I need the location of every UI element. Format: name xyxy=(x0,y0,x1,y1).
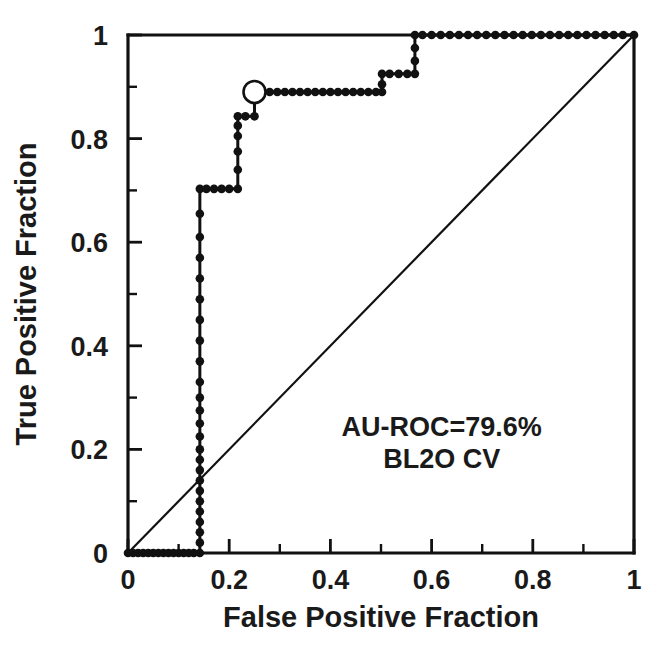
roc-data-point xyxy=(555,31,564,40)
x-tick-label: 0.4 xyxy=(312,565,350,595)
x-tick-label: 1 xyxy=(626,565,641,595)
roc-data-point xyxy=(296,88,305,97)
roc-data-point xyxy=(196,316,205,325)
roc-data-point xyxy=(196,357,205,366)
roc-data-point xyxy=(196,455,205,464)
roc-data-point xyxy=(411,57,420,66)
roc-data-point xyxy=(196,274,205,283)
roc-figure: 00.20.40.60.8100.20.40.60.81 AU-ROC=79.6… xyxy=(0,0,660,653)
roc-data-point xyxy=(403,70,412,79)
y-axis-title: True Positive Fraction xyxy=(10,143,42,446)
roc-data-point xyxy=(411,31,420,40)
roc-data-point xyxy=(446,31,455,40)
roc-chart-canvas: 00.20.40.60.8100.20.40.60.81 AU-ROC=79.6… xyxy=(0,0,660,653)
annotation-text: AU-ROC=79.6% xyxy=(342,412,542,442)
roc-data-point xyxy=(385,70,394,79)
y-tick-label: 0.6 xyxy=(70,228,108,258)
roc-data-point xyxy=(341,88,350,97)
roc-data-point xyxy=(411,70,420,79)
roc-data-point xyxy=(196,209,205,218)
roc-data-point xyxy=(234,132,243,141)
y-tick-label: 0 xyxy=(93,539,108,569)
roc-data-point xyxy=(591,31,600,40)
roc-data-point xyxy=(303,88,312,97)
roc-data-point xyxy=(609,31,618,40)
roc-data-point xyxy=(464,31,473,40)
roc-data-point xyxy=(527,31,536,40)
roc-data-point xyxy=(281,88,290,97)
roc-data-point xyxy=(196,476,205,485)
roc-data-point xyxy=(482,31,491,40)
roc-data-point xyxy=(196,253,205,262)
x-tick-label: 0.6 xyxy=(413,565,451,595)
roc-data-point xyxy=(455,31,464,40)
x-tick-label: 0.2 xyxy=(210,565,248,595)
roc-data-point xyxy=(378,70,387,79)
roc-data-point xyxy=(196,466,205,475)
roc-data-point xyxy=(225,185,234,194)
roc-data-point xyxy=(217,185,226,194)
roc-data-point xyxy=(196,538,205,547)
roc-data-point xyxy=(196,406,205,415)
roc-data-point xyxy=(411,44,420,53)
roc-data-point xyxy=(196,507,205,516)
roc-data-point xyxy=(196,378,205,387)
roc-data-point xyxy=(196,432,205,441)
roc-data-point xyxy=(491,31,500,40)
roc-data-point xyxy=(564,31,573,40)
y-tick-label: 0.2 xyxy=(70,435,108,465)
roc-data-point xyxy=(418,31,427,40)
roc-data-point xyxy=(196,393,205,402)
roc-data-point xyxy=(378,88,387,97)
roc-data-point xyxy=(378,80,387,89)
roc-data-point xyxy=(509,31,518,40)
roc-data-point xyxy=(196,445,205,454)
roc-data-point xyxy=(518,31,527,40)
roc-data-point xyxy=(619,31,628,40)
roc-data-point xyxy=(600,31,609,40)
roc-data-point xyxy=(241,112,250,121)
roc-data-point xyxy=(196,419,205,428)
roc-data-point xyxy=(210,185,219,194)
roc-data-point xyxy=(582,31,591,40)
roc-data-point xyxy=(202,185,211,194)
roc-data-point xyxy=(326,88,335,97)
roc-data-point xyxy=(196,233,205,242)
x-tick-label: 0 xyxy=(120,565,135,595)
roc-data-point xyxy=(436,31,445,40)
roc-data-point xyxy=(234,121,243,130)
roc-data-point xyxy=(288,88,297,97)
roc-data-point xyxy=(319,88,328,97)
roc-data-point xyxy=(311,88,320,97)
roc-data-point xyxy=(196,295,205,304)
y-tick-label: 1 xyxy=(93,21,108,51)
operating-point-circle xyxy=(244,81,266,103)
roc-data-point xyxy=(234,165,243,174)
roc-data-point xyxy=(364,88,373,97)
roc-data-point xyxy=(234,185,243,194)
roc-data-point xyxy=(630,31,639,40)
roc-data-point xyxy=(196,528,205,537)
roc-data-point xyxy=(334,88,343,97)
x-tick-label: 0.8 xyxy=(514,565,552,595)
roc-data-point xyxy=(234,147,243,156)
roc-data-point xyxy=(573,31,582,40)
roc-data-point xyxy=(356,88,365,97)
roc-data-point xyxy=(196,518,205,527)
roc-data-point xyxy=(349,88,358,97)
roc-data-point xyxy=(273,88,282,97)
roc-data-point xyxy=(394,70,403,79)
roc-data-point xyxy=(546,31,555,40)
y-tick-label: 0.4 xyxy=(70,332,108,362)
x-axis-title: False Positive Fraction xyxy=(223,601,539,633)
y-tick-label: 0.8 xyxy=(70,125,108,155)
roc-data-point xyxy=(427,31,436,40)
operating-point-marker xyxy=(244,81,266,103)
roc-data-point xyxy=(196,497,205,506)
roc-data-point xyxy=(196,336,205,345)
roc-data-point xyxy=(500,31,509,40)
roc-data-point xyxy=(234,112,243,121)
roc-data-point xyxy=(537,31,546,40)
annotation-text: BL2O CV xyxy=(383,444,500,474)
roc-data-point xyxy=(196,487,205,496)
